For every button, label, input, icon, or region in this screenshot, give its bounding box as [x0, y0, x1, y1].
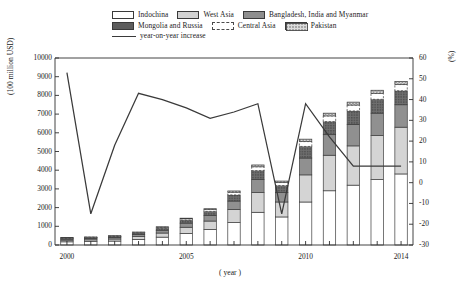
- x-tick-label: 2005: [166, 252, 206, 261]
- chart-figure: Indochina West Asia Bangladesh, India an…: [0, 0, 460, 287]
- bar-segment-central_asia: [323, 116, 335, 122]
- bars-group: [61, 81, 408, 245]
- bar-segment-central_asia: [276, 183, 288, 186]
- y-tick-label: 6000: [2, 128, 52, 137]
- y2-tick-label: -30: [419, 240, 453, 249]
- bar-stack: [323, 113, 335, 245]
- y2-tick-label: -20: [419, 219, 453, 228]
- bar-stack: [228, 191, 240, 245]
- bar-segment-mongolia_russia: [323, 122, 335, 135]
- y-tick-label: 3000: [2, 184, 52, 193]
- bar-segment-bim: [180, 223, 192, 227]
- y-tick-label: 1000: [2, 221, 52, 230]
- x-tick-label: 2010: [286, 252, 326, 261]
- bar-segment-pakistan: [61, 238, 73, 239]
- bar-stack: [252, 165, 264, 245]
- bar-segment-west_asia: [204, 221, 216, 229]
- bar-segment-bim: [228, 201, 240, 209]
- bar-segment-bim: [156, 230, 168, 233]
- bar-segment-pakistan: [132, 232, 144, 233]
- bar-segment-pakistan: [156, 227, 168, 228]
- bar-segment-pakistan: [371, 90, 383, 93]
- bar-segment-central_asia: [252, 167, 264, 171]
- y2-tick-label: 30: [419, 115, 453, 124]
- x-tick-label: 2000: [47, 252, 87, 261]
- bar-segment-west_asia: [228, 209, 240, 222]
- bar-segment-bim: [204, 215, 216, 221]
- y-tick-label: 10000: [2, 53, 52, 62]
- bar-segment-bim: [371, 113, 383, 135]
- bar-segment-indochina: [371, 180, 383, 245]
- bar-segment-pakistan: [228, 191, 240, 192]
- y2-tick-label: 60: [419, 53, 453, 62]
- bar-segment-west_asia: [180, 227, 192, 233]
- bar-segment-pakistan: [347, 102, 359, 105]
- bar-segment-pakistan: [395, 81, 407, 84]
- bar-segment-central_asia: [395, 85, 407, 91]
- bar-segment-indochina: [395, 174, 407, 245]
- bar-segment-bim: [347, 124, 359, 146]
- bar-segment-west_asia: [252, 193, 264, 213]
- bar-segment-central_asia: [228, 192, 240, 195]
- y2-tick-label: 50: [419, 74, 453, 83]
- bar-segment-west_asia: [276, 202, 288, 217]
- y-tick-label: 8000: [2, 90, 52, 99]
- bar-segment-mongolia_russia: [299, 146, 311, 158]
- bar-segment-mongolia_russia: [252, 171, 264, 180]
- bar-segment-west_asia: [323, 155, 335, 191]
- y-tick-label: 2000: [2, 203, 52, 212]
- bar-stack: [395, 81, 407, 245]
- plot-area: [0, 0, 460, 287]
- y-tick-label: 7000: [2, 109, 52, 118]
- bar-segment-pakistan: [204, 209, 216, 210]
- bar-stack: [180, 218, 192, 245]
- bar-segment-west_asia: [299, 175, 311, 202]
- bar-segment-pakistan: [108, 236, 120, 237]
- y-tick-label: 4000: [2, 165, 52, 174]
- bar-segment-west_asia: [156, 233, 168, 237]
- bar-segment-bim: [252, 180, 264, 193]
- bar-segment-indochina: [323, 191, 335, 245]
- bar-segment-central_asia: [371, 93, 383, 99]
- x-tick-label: 2014: [381, 252, 421, 261]
- y2-tick-label: 10: [419, 157, 453, 166]
- bar-segment-indochina: [299, 202, 311, 245]
- bar-segment-central_asia: [299, 142, 311, 147]
- bar-stack: [204, 209, 216, 245]
- bar-segment-west_asia: [132, 237, 144, 240]
- y2-tick-label: 20: [419, 136, 453, 145]
- bar-segment-mongolia_russia: [395, 91, 407, 105]
- bar-segment-mongolia_russia: [180, 220, 192, 223]
- bar-segment-mongolia_russia: [347, 111, 359, 124]
- y-tick-label: 0: [2, 240, 52, 249]
- bar-segment-pakistan: [276, 181, 288, 183]
- bar-segment-bim: [299, 158, 311, 175]
- bar-stack: [299, 139, 311, 245]
- bar-stack: [347, 102, 359, 245]
- bar-segment-west_asia: [395, 127, 407, 174]
- bar-segment-mongolia_russia: [371, 99, 383, 113]
- bar-segment-pakistan: [85, 237, 97, 238]
- bar-segment-bim: [395, 105, 407, 127]
- bar-stack: [371, 90, 383, 245]
- bar-segment-central_asia: [347, 105, 359, 111]
- y-tick-label: 9000: [2, 72, 52, 81]
- bar-segment-indochina: [347, 185, 359, 245]
- y-tick-label: 5000: [2, 147, 52, 156]
- bar-segment-pakistan: [323, 113, 335, 116]
- bar-segment-mongolia_russia: [228, 195, 240, 201]
- y2-tick-label: 0: [419, 178, 453, 187]
- bar-segment-indochina: [276, 217, 288, 245]
- bar-segment-indochina: [252, 212, 264, 245]
- y2-tick-label: 40: [419, 95, 453, 104]
- bar-segment-west_asia: [371, 136, 383, 180]
- y2-tick-label: -10: [419, 198, 453, 207]
- bar-segment-pakistan: [299, 139, 311, 141]
- bar-segment-mongolia_russia: [204, 211, 216, 215]
- bar-segment-pakistan: [252, 165, 264, 167]
- bar-segment-pakistan: [180, 218, 192, 219]
